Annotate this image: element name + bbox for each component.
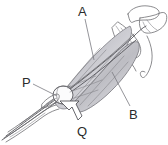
label-a: A bbox=[78, 4, 87, 19]
anatomical-figure-container: A B P Q bbox=[0, 0, 168, 145]
label-q: Q bbox=[77, 124, 87, 139]
label-b: B bbox=[129, 107, 138, 122]
label-p: P bbox=[22, 75, 31, 90]
anatomical-diagram: A B P Q bbox=[0, 0, 168, 145]
